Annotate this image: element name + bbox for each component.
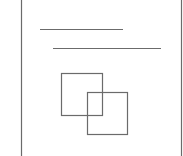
document-page-icon xyxy=(0,0,183,156)
square-shape xyxy=(62,74,103,116)
document-diagram xyxy=(0,0,183,156)
square-shape xyxy=(88,93,128,135)
